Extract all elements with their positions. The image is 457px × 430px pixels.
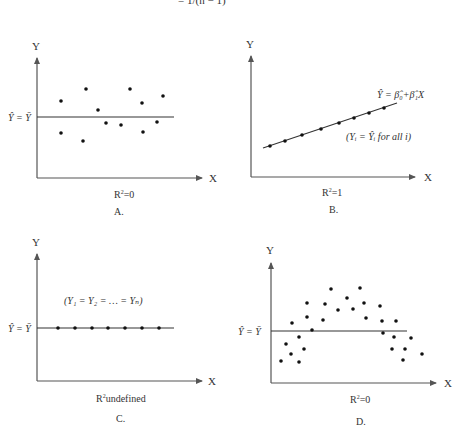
panel-c: Y X Ŷ = Ȳ (Y₁ = Y₂ = … = Yₙ) R2undefined… xyxy=(8,236,216,424)
top-fragment: = 1/(n − 1) xyxy=(178,0,226,7)
data-points xyxy=(59,87,165,143)
r2-label: R2=0 xyxy=(114,189,134,200)
mean-line-label: Ŷ = Ȳ xyxy=(238,326,262,337)
mean-line-label: Ŷ = Ȳ xyxy=(8,112,32,123)
panel-a: Y X Ŷ = Ȳ R2=0 A. xyxy=(8,40,217,217)
panel-b: Y X Ŷ = β̂₀+β̂₁X (Yᵢ = Ŷᵢ for all i) R2=… xyxy=(246,38,432,215)
panel-d: Y X Ŷ = Ȳ R2=0 D. xyxy=(238,244,452,427)
mean-line-label: Ŷ = Ȳ xyxy=(8,323,32,334)
y-axis-label: Y xyxy=(266,244,274,256)
panel-caption: A. xyxy=(114,206,124,217)
y-axis-label: Y xyxy=(32,40,40,52)
y-axis-label: Y xyxy=(32,236,40,248)
regression-r2-diagram: = 1/(n − 1) Y X Ŷ = Ȳ R2=0 A. Y X Ŷ = β̂… xyxy=(0,0,457,430)
panel-caption: D. xyxy=(356,416,366,427)
panel-caption: C. xyxy=(116,413,125,424)
regression-line-label: Ŷ = β̂₀+β̂₁X xyxy=(377,89,425,100)
r2-label: R2=1 xyxy=(322,187,342,198)
r2-label: R2=0 xyxy=(350,394,370,405)
y-axis-label: Y xyxy=(246,38,254,50)
x-axis-label: X xyxy=(444,377,452,389)
fit-note: (Yᵢ = Ŷᵢ for all i) xyxy=(346,131,412,143)
data-points xyxy=(279,286,424,364)
r2-label: R2undefined xyxy=(96,393,146,404)
x-axis-label: X xyxy=(209,172,217,184)
equal-values-note: (Y₁ = Y₂ = … = Yₙ) xyxy=(64,295,143,307)
x-axis-label: X xyxy=(424,171,432,183)
panel-caption: B. xyxy=(329,204,338,215)
x-axis-label: X xyxy=(208,375,216,387)
